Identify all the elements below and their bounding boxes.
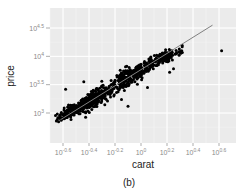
x-tick-label: 100.6 bbox=[212, 147, 227, 156]
x-tick-label: 100 bbox=[136, 147, 147, 156]
y-axis-ticks: 103103.5104104.5 bbox=[29, 23, 50, 117]
y-tick-label: 103 bbox=[33, 108, 44, 117]
x-tick-label: 10-0.2 bbox=[107, 147, 124, 156]
y-tick-label: 103.5 bbox=[29, 79, 44, 88]
x-axis-title: carat bbox=[132, 159, 154, 170]
y-tick-label: 104 bbox=[33, 51, 44, 60]
scatter-chart: 10-0.610-0.410-0.2100100.2100.4100.6 103… bbox=[0, 0, 244, 196]
y-axis-title: price bbox=[5, 65, 16, 87]
x-tick-label: 100.2 bbox=[160, 147, 175, 156]
x-tick-label: 10-0.4 bbox=[81, 147, 98, 156]
x-tick-label: 10-0.6 bbox=[55, 147, 72, 156]
x-tick-label: 100.4 bbox=[186, 147, 201, 156]
figure-caption: (b) bbox=[123, 177, 135, 188]
x-axis-ticks: 10-0.610-0.410-0.2100100.2100.4100.6 bbox=[55, 143, 227, 156]
y-tick-label: 104.5 bbox=[29, 23, 44, 32]
